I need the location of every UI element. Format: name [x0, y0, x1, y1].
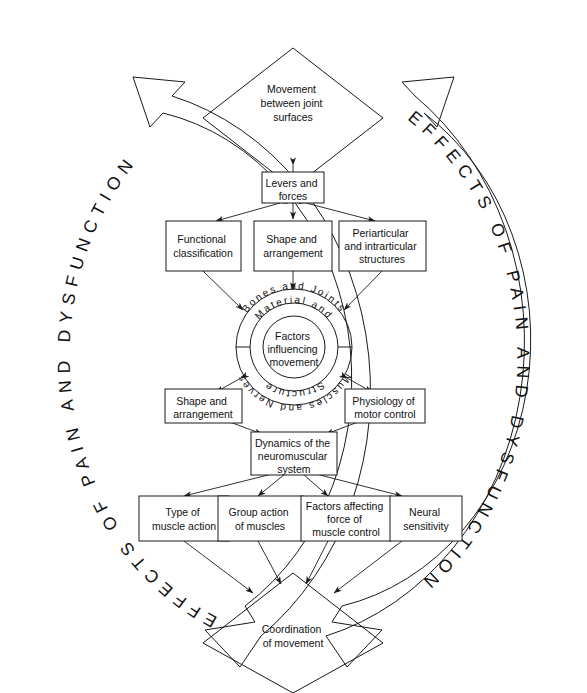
connector-levers-functional [216, 203, 280, 221]
shape-arrangement-lower-label: Shape and arrangement [173, 395, 233, 420]
node-shape-and-arrangement-lower[interactable]: Shape and arrangement [165, 389, 242, 423]
connector-groupaction-bottomdiamond [258, 541, 281, 584]
left-effects-band [133, 77, 370, 667]
node-physiology-of-motor-control[interactable]: Physiology of motor control [345, 389, 425, 423]
connector-dynamics-groupaction [258, 474, 285, 496]
connector-dynamics-typeofmuscle [184, 474, 272, 496]
concept-map-svg: EFFECTS OF PAIN AND DYSFUNCTION EFFECTS … [0, 0, 587, 693]
core-rings-group[interactable]: Bones and Joints Muscles and Nerves Mate… [234, 280, 354, 414]
node-functional-classification[interactable]: Functional classification [166, 221, 241, 271]
top-diamond-label: Movement between joint surfaces [261, 83, 326, 123]
type-of-muscle-action-box [139, 496, 229, 541]
node-neural-sensitivity[interactable]: Neural sensitivity [390, 496, 462, 541]
connector-functional-core [203, 271, 243, 310]
diagram-root: EFFECTS OF PAIN AND DYSFUNCTION EFFECTS … [0, 0, 587, 693]
connector-typeofmuscle-bottomdiamond [184, 541, 253, 593]
node-shape-and-arrangement-upper[interactable]: Shape and arrangement [254, 221, 332, 271]
core-center-label: Factors influencing movement [267, 330, 320, 368]
node-factors-affecting-force[interactable]: Factors affecting force of muscle contro… [301, 496, 391, 541]
node-type-of-muscle-action[interactable]: Type of muscle action [139, 496, 229, 541]
core-inner-ring-bottom-label: Structure [261, 380, 326, 400]
node-levers-and-forces[interactable]: Levers and forces [262, 172, 324, 203]
group-action-box [218, 496, 303, 541]
node-group-action-of-muscles[interactable]: Group action of muscles [218, 496, 303, 541]
bottom-diamond-label: Coordination of movement [262, 623, 324, 649]
node-periarticular-structures[interactable]: Periarticular and intrarticular structur… [339, 221, 426, 271]
neural-sensitivity-box [390, 496, 462, 541]
connector-dynamics-factorsaffecting [303, 474, 328, 496]
connector-neuralsensitivity-bottomdiamond [334, 541, 402, 593]
node-dynamics-neuromuscular-system[interactable]: Dynamics of the neuromuscular system [251, 432, 337, 475]
physiology-label: Physiology of motor control [352, 395, 417, 420]
